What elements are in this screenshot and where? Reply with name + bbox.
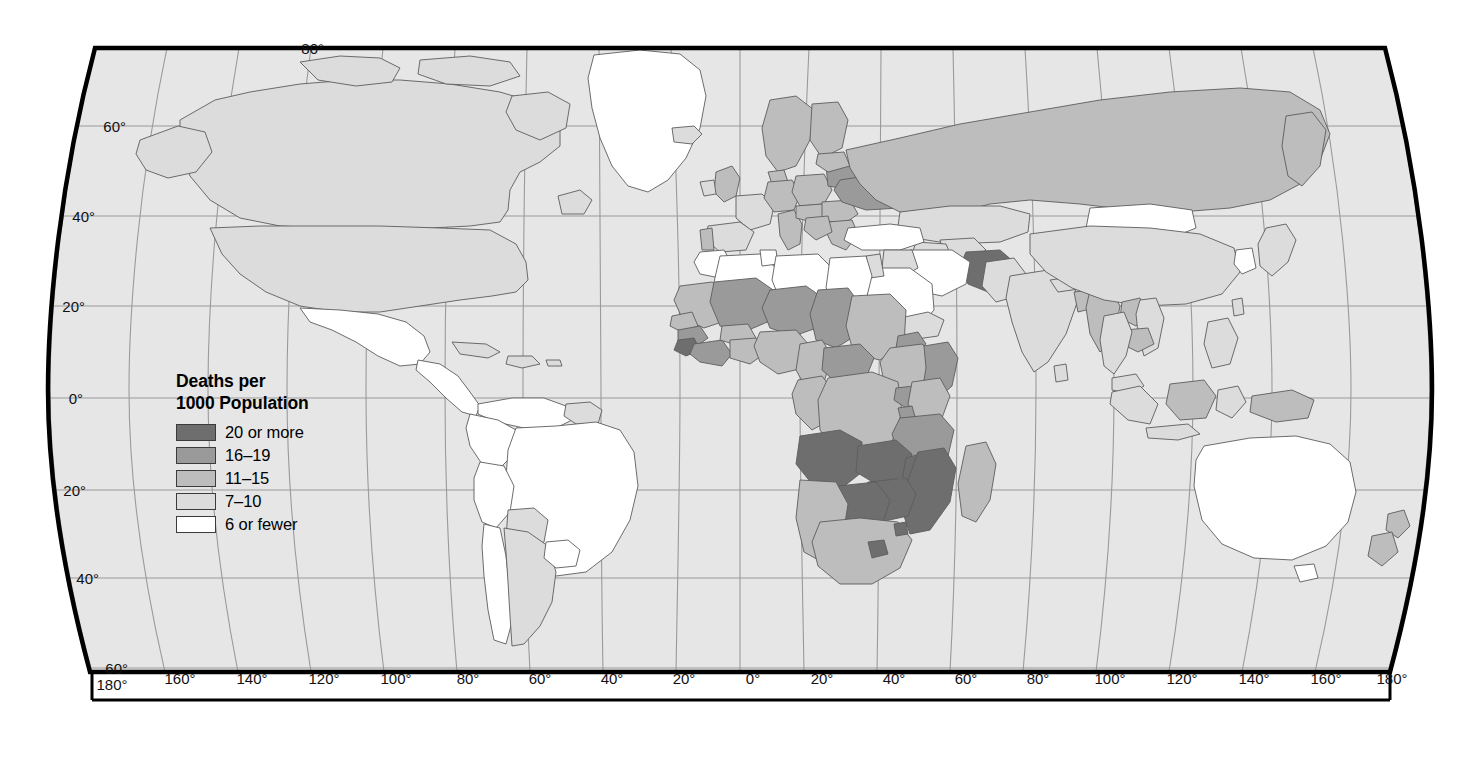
longitude-label-80e: 80° — [1027, 670, 1050, 687]
latitude-label-80n: 80° — [301, 40, 324, 57]
longitude-label-20w: 20° — [673, 670, 696, 687]
longitude-label-100w: 100° — [380, 670, 411, 687]
legend-title: Deaths per1000 Population — [176, 370, 376, 414]
longitude-label-60e: 60° — [955, 670, 978, 687]
latitude-label-20n: 20° — [62, 298, 85, 315]
map-figure: 80° 60° 40° 20° 0° 20° 40° 60° 180° 160°… — [0, 0, 1479, 781]
latitude-label-40n: 40° — [72, 208, 95, 225]
longitude-label-60w: 60° — [529, 670, 552, 687]
legend-row-6-or-fewer: 6 or fewer — [176, 513, 376, 536]
region-swaziland — [894, 522, 908, 536]
legend-swatch-7-10 — [176, 493, 216, 510]
legend-swatch-16-19 — [176, 447, 216, 464]
region-canada — [180, 80, 560, 228]
longitude-label-140e: 140° — [1238, 670, 1269, 687]
region-portugal — [700, 228, 714, 250]
longitude-label-120w: 120° — [308, 670, 339, 687]
region-puerto-rico — [546, 360, 562, 366]
legend-title-line1: Deaths per — [176, 371, 265, 391]
latitude-label-0: 0° — [69, 390, 83, 407]
latitude-label-20s: 20° — [63, 482, 86, 499]
map-legend: Deaths per1000 Population 20 or more 16–… — [176, 370, 376, 536]
latitude-label-60s: 60° — [105, 660, 128, 677]
longitude-label-160w: 160° — [164, 670, 195, 687]
longitude-label-160e: 160° — [1310, 670, 1341, 687]
longitude-label-120e: 120° — [1166, 670, 1197, 687]
region-sri-lanka — [1054, 364, 1068, 382]
legend-swatch-11-15 — [176, 470, 216, 487]
longitude-label-180e: 180° — [1376, 670, 1407, 687]
legend-swatch-20-or-more — [176, 424, 216, 441]
region-turkey — [844, 224, 924, 250]
legend-swatch-6-or-fewer — [176, 516, 216, 533]
longitude-label-20e: 20° — [811, 670, 834, 687]
longitude-label-100e: 100° — [1094, 670, 1125, 687]
legend-title-line2: 1000 Population — [176, 393, 309, 413]
legend-row-7-10: 7–10 — [176, 490, 376, 513]
legend-items: 20 or more 16–19 11–15 7–10 6 or fewer — [176, 421, 376, 536]
longitude-label-40w: 40° — [601, 670, 624, 687]
region-taiwan — [1232, 298, 1244, 316]
longitude-label-80w: 80° — [457, 670, 480, 687]
longitude-label-140w: 140° — [236, 670, 267, 687]
legend-label-20-or-more: 20 or more — [225, 423, 304, 442]
legend-row-20-or-more: 20 or more — [176, 421, 376, 444]
legend-row-16-19: 16–19 — [176, 444, 376, 467]
longitude-label-0: 0° — [746, 670, 760, 687]
latitude-label-60n: 60° — [103, 118, 126, 135]
legend-label-11-15: 11–15 — [225, 469, 269, 488]
legend-label-7-10: 7–10 — [225, 492, 261, 511]
longitude-label-180w: 180° — [96, 676, 127, 693]
longitude-label-40e: 40° — [883, 670, 906, 687]
latitude-label-40s: 40° — [76, 570, 99, 587]
legend-label-6-or-fewer: 6 or fewer — [225, 515, 297, 534]
region-poland — [792, 174, 832, 206]
legend-row-11-15: 11–15 — [176, 467, 376, 490]
legend-label-16-19: 16–19 — [225, 446, 270, 465]
